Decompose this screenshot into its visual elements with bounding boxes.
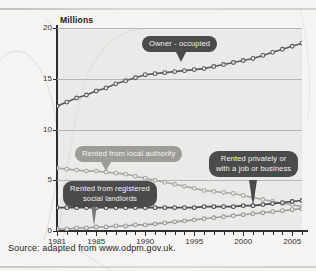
- series-marker: [202, 217, 206, 221]
- annotation-private-or-job: Rented privately or with a job or busine…: [209, 151, 298, 177]
- series-marker: [104, 86, 108, 90]
- series-marker: [153, 72, 157, 76]
- y-tick-label: 15: [12, 74, 52, 83]
- x-tick-mark: [106, 231, 107, 235]
- series-marker: [163, 206, 167, 210]
- y-tick-label: 20: [12, 23, 52, 32]
- series-marker: [153, 178, 157, 182]
- series-marker: [212, 205, 216, 209]
- series-marker: [143, 176, 147, 180]
- series-marker: [300, 199, 302, 203]
- series-marker: [192, 206, 196, 210]
- series-marker: [134, 223, 138, 227]
- x-tick-mark: [273, 231, 274, 235]
- annotation-private-or-job-tail: [249, 180, 257, 206]
- series-marker: [232, 192, 236, 196]
- series-marker: [300, 207, 302, 211]
- series-marker: [192, 186, 196, 190]
- series-marker: [104, 225, 108, 229]
- series-marker: [281, 47, 285, 51]
- x-tick-mark: [145, 231, 146, 236]
- series-marker: [281, 201, 285, 205]
- x-tick-mark: [204, 231, 205, 235]
- x-tick-mark: [194, 231, 195, 236]
- series-marker: [114, 171, 118, 175]
- x-tick-mark: [263, 231, 264, 235]
- x-tick-mark: [282, 231, 283, 235]
- page-rule-top: [0, 8, 316, 10]
- series-marker: [261, 203, 265, 207]
- x-tick-label: 2005: [283, 237, 301, 246]
- x-tick-mark: [243, 231, 244, 236]
- series-marker: [173, 70, 177, 74]
- x-tick-mark: [57, 231, 58, 236]
- x-tick-mark: [224, 231, 225, 235]
- series-marker: [232, 214, 236, 218]
- y-axis-unit-label: Millions: [60, 15, 93, 25]
- series-marker: [85, 93, 89, 97]
- series-marker: [57, 104, 59, 108]
- series-marker: [202, 189, 206, 193]
- x-tick-mark: [155, 231, 156, 235]
- series-marker: [183, 69, 187, 73]
- series-marker: [134, 76, 138, 80]
- series-marker: [124, 224, 128, 228]
- x-tick-mark: [233, 231, 234, 235]
- series-marker: [251, 212, 255, 216]
- x-tick-mark: [67, 231, 68, 235]
- series-marker: [212, 190, 216, 194]
- x-tick-mark: [175, 231, 176, 235]
- series-marker: [192, 68, 196, 72]
- x-tick-mark: [214, 231, 215, 235]
- series-marker: [281, 209, 285, 213]
- series-marker: [241, 59, 245, 63]
- series-marker: [271, 210, 275, 214]
- series-marker: [241, 204, 245, 208]
- x-tick-mark: [86, 231, 87, 235]
- series-marker: [85, 169, 89, 173]
- series-marker: [163, 71, 167, 75]
- annotation-owner-occupied-tail: [176, 52, 186, 62]
- x-tick-mark: [96, 231, 97, 236]
- series-marker: [65, 167, 69, 171]
- series-marker: [153, 206, 157, 210]
- series-marker: [94, 169, 98, 173]
- x-tick-mark: [116, 231, 117, 235]
- series-marker: [241, 213, 245, 217]
- series-marker: [143, 223, 147, 227]
- series-marker: [300, 41, 302, 45]
- series-marker: [114, 82, 118, 86]
- page-rule-bottom: [0, 266, 316, 268]
- series-marker: [261, 198, 265, 202]
- series-marker: [261, 211, 265, 215]
- series-marker: [232, 61, 236, 65]
- x-tick-mark: [253, 231, 254, 235]
- series-marker: [183, 219, 187, 223]
- series-marker: [290, 200, 294, 204]
- series-marker: [222, 63, 226, 67]
- annotation-owner-occupied: Owner - occupied: [142, 36, 217, 52]
- x-tick-mark: [165, 231, 166, 235]
- series-marker: [261, 54, 265, 58]
- x-tick-mark: [184, 231, 185, 235]
- page-canvas: Millions 05101520 1981198519901995200020…: [0, 0, 316, 271]
- annotation-social-landlords-tail: [91, 204, 97, 226]
- series-marker: [134, 174, 138, 178]
- series-marker: [173, 206, 177, 210]
- series-marker: [290, 44, 294, 48]
- series-marker: [212, 216, 216, 220]
- series-marker: [202, 67, 206, 71]
- series-marker: [222, 191, 226, 195]
- series-marker: [222, 205, 226, 209]
- series-marker: [251, 57, 255, 61]
- y-tick-label: 0: [12, 226, 52, 235]
- series-marker: [124, 172, 128, 176]
- series-marker: [143, 73, 147, 77]
- series-marker: [192, 218, 196, 222]
- y-tick-label: 5: [12, 175, 52, 184]
- series-marker: [183, 184, 187, 188]
- series-marker: [212, 65, 216, 69]
- x-tick-mark: [302, 231, 303, 235]
- x-tick-mark: [126, 231, 127, 235]
- series-marker: [290, 208, 294, 212]
